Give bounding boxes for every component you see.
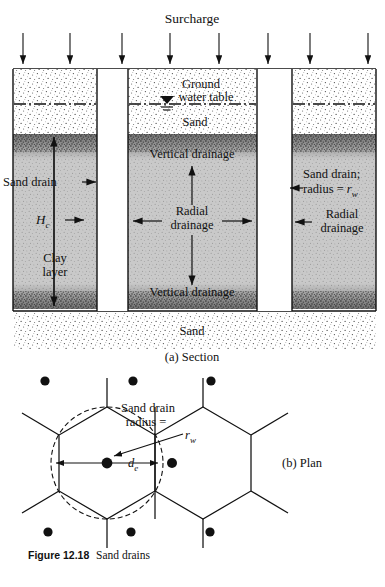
clay-bottom-shade (13, 283, 97, 309)
drain-dot (205, 527, 214, 536)
figure-caption: Figure 12.18 Sand drains (28, 549, 151, 561)
clay-layer-label-line2: layer (43, 265, 69, 279)
sand-drains-figure: Surcharge (0, 0, 385, 587)
sand-drain-right-label-line1: Sand drain; (303, 167, 360, 181)
section-part-label: (a) Section (165, 350, 220, 364)
ground-water-table-label-line2: water table (178, 90, 234, 104)
figure-title: Sand drains (96, 549, 151, 561)
radial-drainage-right-line1: Radial (326, 207, 359, 221)
surcharge-label: Surcharge (165, 11, 219, 26)
sand-drain-left-label: Sand drain (3, 175, 58, 189)
upper-sand-right (292, 69, 376, 134)
clay-top-shade (292, 134, 376, 160)
clay-left (13, 134, 97, 309)
plan-sand-drain-label-line2: radius = (126, 415, 167, 429)
drain-dot (128, 376, 137, 385)
vertical-drainage-top-label: Vertical drainage (149, 147, 234, 161)
plan-sand-drain-label-line1: Sand drain (121, 401, 176, 415)
upper-sand-left (13, 69, 97, 134)
figure-canvas: Surcharge (0, 0, 385, 587)
radial-drainage-right-line2: drainage (320, 221, 363, 235)
drain-dot (126, 527, 135, 536)
radial-drainage-center-line1: Radial (176, 204, 209, 218)
drain-dot (43, 527, 52, 536)
clay-top-shade (13, 134, 97, 160)
vertical-drainage-bottom-label: Vertical drainage (149, 285, 234, 299)
top-sand-label: Sand (183, 115, 209, 129)
sand-drain-column-right (257, 69, 292, 311)
drain-dot (167, 458, 177, 468)
drain-dot (40, 376, 49, 385)
sand-drain-column-left (97, 69, 128, 311)
drain-dot (206, 376, 215, 385)
figure-number: Figure 12.18 (28, 549, 89, 561)
clay-bottom-shade (292, 283, 376, 309)
bottom-sand-label: Sand (180, 324, 206, 338)
plan-part-label: (b) Plan (282, 456, 323, 470)
clay-layer-label-line1: Clay (43, 251, 67, 265)
ground-water-table-label-line1: Ground (182, 77, 221, 91)
drain-dot-center (102, 458, 113, 469)
radial-drainage-center-line2: drainage (170, 218, 213, 232)
